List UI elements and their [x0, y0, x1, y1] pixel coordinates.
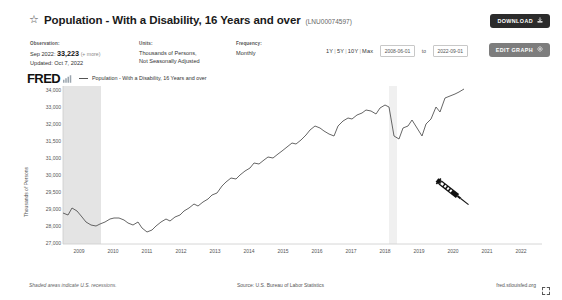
- x-tick: 2013: [209, 248, 220, 254]
- plot-area: Thousands of Persons 34,000 33,000 32,00…: [0, 84, 562, 300]
- download-icon: [537, 17, 543, 24]
- units-label: Units:: [139, 41, 219, 46]
- units-line-1: Thousands of Persons,: [139, 49, 219, 57]
- fred-series-page: ☆ Population - With a Disability, 16 Yea…: [0, 0, 562, 300]
- series-id: (LNU00074597): [306, 18, 352, 25]
- title-row: ☆ Population - With a Disability, 16 Yea…: [29, 14, 352, 26]
- fullscreen-icon[interactable]: [542, 281, 550, 289]
- x-tick: 2022: [515, 248, 526, 254]
- range-preset-max[interactable]: Max: [362, 48, 373, 54]
- x-axis-tick-labels: 2009 2010 2011 2012 2013 2014 2015 2016 …: [63, 244, 542, 258]
- x-tick: 2019: [413, 248, 424, 254]
- x-tick: 2020: [447, 248, 458, 254]
- download-button-label: DOWNLOAD: [497, 18, 533, 24]
- star-outline-icon[interactable]: ☆: [29, 14, 39, 25]
- range-from-input[interactable]: 2008-06-01: [380, 45, 415, 57]
- observation-label: Observation:: [30, 41, 122, 46]
- observation-value-line: Sep 2022: 33,223 (+ more): [30, 49, 122, 59]
- range-to-input[interactable]: 2022-09-01: [433, 45, 468, 57]
- series-metadata: Observation: Sep 2022: 33,223 (+ more) U…: [30, 41, 279, 67]
- observation-block: Observation: Sep 2022: 33,223 (+ more) U…: [30, 41, 122, 67]
- x-tick: 2011: [142, 248, 153, 254]
- chart-legend: Population - With a Disability, 16 Years…: [79, 75, 207, 81]
- fred-url: fred.stlouisfed.org: [496, 282, 536, 288]
- x-tick: 2010: [107, 248, 118, 254]
- frequency-block: Frequency: Monthly: [236, 41, 262, 67]
- source-note: Source: U.S. Bureau of Labor Statistics: [237, 282, 324, 288]
- edit-graph-button-label: EDIT GRAPH: [496, 47, 533, 53]
- page-header: ☆ Population - With a Disability, 16 Yea…: [0, 0, 562, 68]
- recession-band: [63, 86, 101, 244]
- legend-line-swatch: [79, 78, 88, 79]
- range-preset-1y[interactable]: 1Y: [326, 48, 333, 54]
- chart-panel: FRED Population - With a Disability, 16 …: [0, 68, 562, 300]
- x-tick: 2009: [73, 248, 84, 254]
- observation-updated: Updated: Oct 7, 2022: [30, 59, 122, 67]
- range-preset-10y[interactable]: 10Y: [348, 48, 359, 54]
- observation-value: 33,223: [57, 49, 79, 58]
- x-tick: 2014: [243, 248, 254, 254]
- units-block: Units: Thousands of Persons, Not Seasona…: [139, 41, 219, 67]
- x-tick: 2012: [175, 248, 186, 254]
- gear-icon: [537, 46, 543, 53]
- recession-band: [389, 86, 397, 244]
- recession-note: Shaded areas indicate U.S. recessions.: [29, 282, 117, 288]
- x-tick: 2021: [481, 248, 492, 254]
- range-preset-5y[interactable]: 5Y: [337, 48, 344, 54]
- frequency-value: Monthly: [236, 49, 262, 57]
- units-line-2: Not Seasonally Adjusted: [139, 57, 219, 65]
- date-range-controls: 1Y|5Y|10Y|Max 2008-06-01 to 2022-09-01: [326, 45, 468, 57]
- fred-logo: FRED: [27, 72, 60, 85]
- x-tick: 2017: [345, 248, 356, 254]
- range-preset-group: 1Y|5Y|10Y|Max: [326, 48, 373, 54]
- legend-label: Population - With a Disability, 16 Years…: [92, 75, 207, 81]
- download-button[interactable]: DOWNLOAD: [490, 14, 550, 28]
- x-tick: 2016: [311, 248, 322, 254]
- syringe-icon: [435, 177, 471, 207]
- frequency-label: Frequency:: [236, 41, 262, 46]
- range-to-label: to: [422, 48, 426, 54]
- observation-more-link[interactable]: (+ more): [81, 51, 101, 57]
- observation-date: Sep 2022:: [30, 51, 56, 57]
- chart-footer: Shaded areas indicate U.S. recessions. S…: [0, 282, 562, 294]
- series-line: [63, 89, 464, 232]
- page-title: Population - With a Disability, 16 Years…: [44, 14, 301, 26]
- x-tick: 2015: [277, 248, 288, 254]
- edit-graph-button[interactable]: EDIT GRAPH: [489, 43, 550, 57]
- x-tick: 2018: [379, 248, 390, 254]
